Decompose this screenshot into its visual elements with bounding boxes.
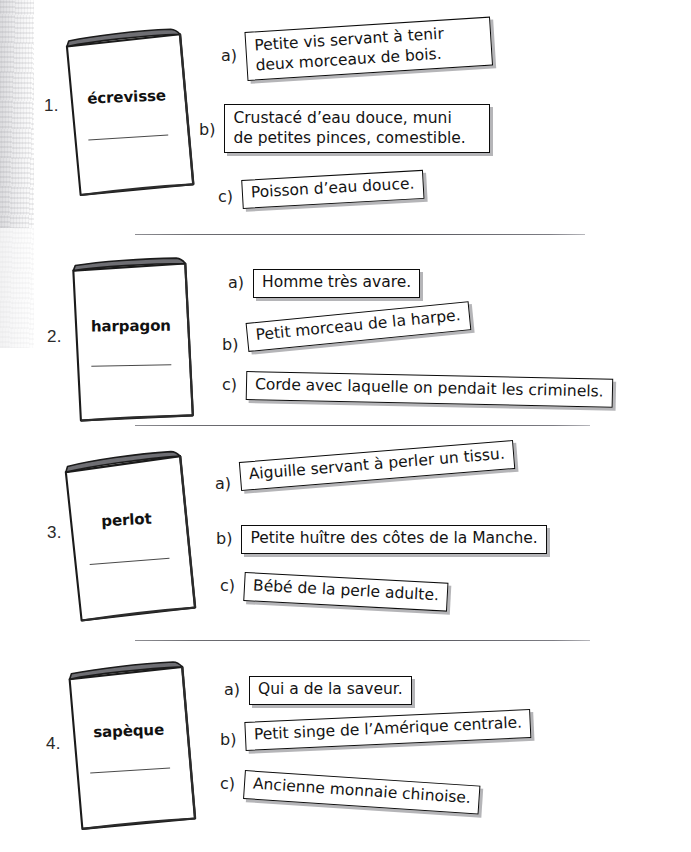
answer-text-2c: Corde avec laquelle on pendait les crimi…: [255, 375, 604, 400]
answer-box-1a[interactable]: Petite vis servant à tenir deux morceaux…: [244, 17, 493, 82]
answer-letter-4a: a): [224, 682, 240, 698]
card-outline-icon: [63, 249, 205, 425]
exercise-section-3: 3. perlot a) Aiguille servant à perler u…: [0, 425, 691, 640]
answer-text-1b-line1: Crustacé d’eau douce, muni: [233, 109, 451, 127]
word-card-3: perlot: [64, 452, 190, 610]
card-outline-icon: [59, 653, 206, 833]
exercise-section-1: 1. écrevisse a) Petite vis servant à ten…: [0, 0, 691, 234]
answer-text-2b: Petit morceau de la harpe.: [255, 306, 461, 344]
answer-row-1c[interactable]: c) Poisson d’eau douce.: [218, 180, 424, 209]
exercise-section-2: 2. harpagon a) Homme très avare. b) Peti…: [0, 234, 691, 425]
word-card-1: écrevisse: [65, 29, 189, 186]
question-number-4: 4.: [46, 734, 61, 754]
answer-letter-1a: a): [221, 48, 237, 64]
answer-row-4a[interactable]: a) Qui a de la saveur.: [224, 676, 412, 705]
answer-text-3c: Bébé de la perle adulte.: [253, 576, 440, 604]
answer-row-1a[interactable]: a) Petite vis servant à tenir deux morce…: [221, 32, 492, 81]
answer-text-4a: Qui a de la saveur.: [258, 680, 403, 698]
answer-letter-3a: a): [215, 476, 231, 492]
card-outline-icon: [57, 20, 204, 201]
answer-letter-1b: b): [199, 122, 215, 138]
answer-box-3c[interactable]: Bébé de la perle adulte.: [243, 572, 448, 611]
answer-text-1c: Poisson d’eau douce.: [250, 174, 414, 201]
question-number-2: 2.: [47, 327, 62, 347]
answer-box-1b[interactable]: Crustacé d’eau douce, muni de petites pi…: [224, 104, 490, 153]
answer-row-3b[interactable]: b) Petite huître des côtes de la Manche.: [216, 525, 547, 554]
answer-row-4b[interactable]: b) Petit singe de l’Amérique centrale.: [220, 722, 532, 751]
answer-box-2a[interactable]: Homme très avare.: [253, 269, 420, 298]
answer-letter-2c: c): [222, 377, 237, 393]
question-number-1: 1.: [44, 96, 59, 116]
word-card-4: sapèque: [67, 662, 191, 818]
answer-row-1b[interactable]: b) Crustacé d’eau douce, muni de petites…: [199, 104, 490, 153]
answer-text-2a: Homme très avare.: [262, 273, 411, 291]
answer-letter-2b: b): [222, 337, 238, 353]
answer-letter-4c: c): [220, 776, 235, 792]
answer-box-4b[interactable]: Petit singe de l’Amérique centrale.: [245, 709, 532, 751]
answer-text-3a: Aiguille servant à perler un tissu.: [248, 445, 505, 484]
answer-box-2c[interactable]: Corde avec laquelle on pendait les crimi…: [246, 371, 613, 408]
answer-letter-1c: c): [218, 189, 233, 205]
answer-box-1c[interactable]: Poisson d’eau douce.: [241, 170, 424, 209]
answer-box-4c[interactable]: Ancienne monnaie chinoise.: [243, 770, 481, 814]
answer-row-2b[interactable]: b) Petit morceau de la harpe.: [222, 323, 471, 353]
answer-text-4c: Ancienne monnaie chinoise.: [253, 775, 472, 807]
answer-row-4c[interactable]: c) Ancienne monnaie chinoise.: [220, 770, 480, 799]
answer-text-3b: Petite huître des côtes de la Manche.: [250, 529, 537, 547]
word-card-2: harpagon: [71, 257, 191, 410]
card-outline-icon: [56, 443, 205, 625]
answer-box-3a[interactable]: Aiguille servant à perler un tissu.: [239, 440, 515, 491]
answer-box-2b[interactable]: Petit morceau de la harpe.: [246, 301, 471, 352]
answer-letter-3b: b): [216, 531, 232, 547]
answer-letter-4b: b): [220, 732, 236, 748]
answer-letter-2a: a): [228, 275, 244, 291]
answer-row-3c[interactable]: c) Bébé de la perle adulte.: [220, 572, 448, 601]
answer-row-3a[interactable]: a) Aiguille servant à perler un tissu.: [215, 462, 515, 492]
answer-row-2a[interactable]: a) Homme très avare.: [228, 269, 420, 298]
answer-text-4b: Petit singe de l’Amérique centrale.: [254, 713, 523, 743]
answer-box-3b[interactable]: Petite huître des côtes de la Manche.: [241, 525, 546, 554]
answer-row-2c[interactable]: c) Corde avec laquelle on pendait les cr…: [222, 371, 613, 400]
answer-letter-3c: c): [220, 578, 235, 594]
answer-box-4a[interactable]: Qui a de la saveur.: [249, 676, 412, 705]
exercise-section-4: 4. sapèque a) Qui a de la saveur. b) Pet…: [0, 640, 691, 852]
card-word-2: harpagon: [72, 316, 190, 335]
answer-text-1b-line2: de petites pinces, comestible.: [233, 129, 465, 147]
